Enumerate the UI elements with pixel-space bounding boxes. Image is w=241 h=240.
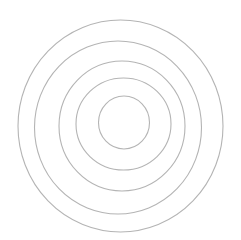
concentric-circles-diagram xyxy=(0,0,241,240)
circle-outer-1 xyxy=(18,20,223,232)
circle-3 xyxy=(59,61,185,191)
circle-4 xyxy=(76,78,171,170)
circle-inner-5 xyxy=(99,96,150,149)
